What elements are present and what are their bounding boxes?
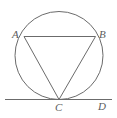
point-label-b: B (99, 29, 106, 40)
segment-bc (59, 37, 96, 100)
circle-shape (15, 12, 103, 100)
point-label-a: A (12, 29, 19, 40)
point-label-c: C (55, 102, 62, 113)
point-label-d: D (98, 101, 106, 112)
segment-ac (24, 37, 59, 100)
geometry-figure: A B C D (0, 0, 117, 118)
